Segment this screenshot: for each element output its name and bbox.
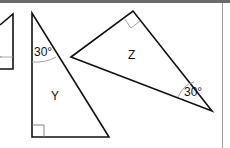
angle-label-y: 30°	[34, 45, 52, 59]
right-angle-marker	[32, 125, 44, 137]
right-angle-marker	[124, 18, 140, 28]
triangle-label-y: Y	[51, 89, 59, 103]
triangle-z: 30° Z	[71, 11, 212, 111]
triangle-partial	[0, 14, 13, 69]
triangles-diagram: 30° Y 30° Z	[0, 0, 230, 148]
triangle-label-z: Z	[128, 48, 135, 62]
triangle-y: 30° Y	[32, 13, 109, 137]
angle-label-z: 30°	[184, 85, 202, 99]
